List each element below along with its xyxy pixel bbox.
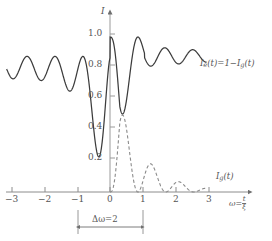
x-tick-label-5: 1	[140, 194, 146, 204]
width-annotation-label: Δω=2	[92, 214, 118, 224]
curve-label-solid: Ie(t)=1−Ig(t)	[200, 58, 255, 69]
x-tick-label-3: −1	[71, 194, 84, 204]
curve-label-dashed-suffix: (t)	[224, 171, 234, 181]
curve-solid-ie	[7, 37, 207, 157]
x-axis-label: ω= t ξ	[229, 196, 246, 211]
x-axis-label-equals: =	[236, 199, 243, 208]
y-tick-label-5: 0.2	[88, 152, 102, 162]
curve-dashed-ig	[110, 115, 207, 192]
curve-label-dashed: Ig(t)	[216, 171, 234, 182]
x-axis-ticks	[12, 187, 209, 192]
x-tick-label-2: −2	[38, 194, 51, 204]
figure-canvas: I 1.0 0.8 0.6 0.4 0.2 −3 −2 −1 0 1 2 3 ω…	[0, 0, 272, 241]
x-tick-label-6: 2	[173, 194, 179, 204]
x-tick-label-1: −3	[5, 194, 18, 204]
y-axis-label: I	[101, 6, 105, 16]
y-tick-label-2: 0.8	[88, 59, 102, 69]
y-axis-ticks	[110, 34, 115, 158]
curve-label-solid-body: (t)=1−I	[207, 58, 240, 68]
curve-label-solid-suffix: (t)	[244, 58, 254, 68]
x-axis-label-denominator: ξ	[242, 204, 246, 211]
x-tick-label-4: 0	[107, 194, 113, 204]
x-tick-label-7: 3	[206, 194, 212, 204]
y-tick-label-3: 0.6	[88, 90, 102, 100]
y-tick-label-1: 1.0	[88, 28, 102, 38]
y-tick-label-4: 0.4	[88, 121, 102, 131]
